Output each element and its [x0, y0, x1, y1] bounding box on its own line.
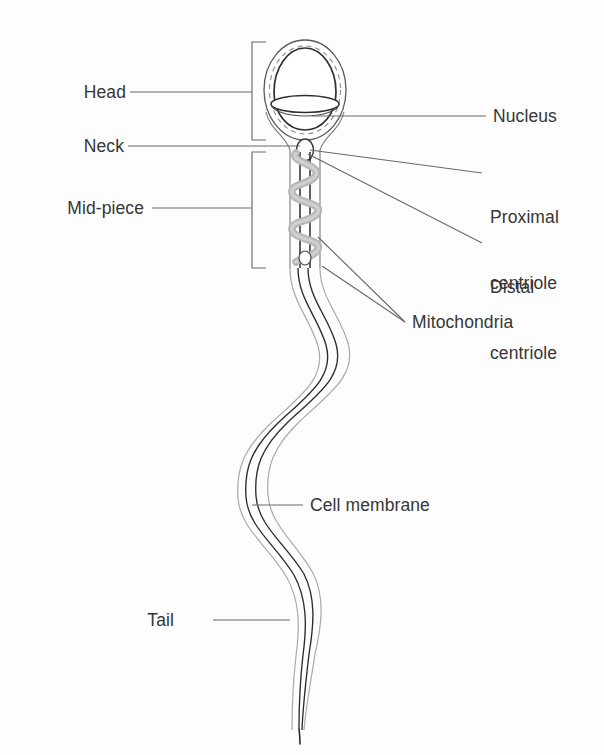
label-distal-centriole-line2: centriole — [490, 342, 557, 364]
diagram-canvas: Head Neck Mid-piece Nucleus Proximal cen… — [0, 0, 604, 755]
distal-centriole — [299, 251, 311, 265]
label-tail: Tail — [118, 609, 174, 631]
label-proximal-centriole-line1: Proximal — [490, 206, 559, 228]
label-neck: Neck — [56, 135, 124, 157]
mid-piece-bracket — [252, 152, 266, 268]
label-cell-membrane: Cell membrane — [310, 494, 430, 516]
label-mid-piece: Mid-piece — [20, 197, 144, 219]
proximal-centriole-leader-line — [310, 150, 482, 173]
tail-tip — [299, 729, 300, 744]
mitochondria-leader-line-upper — [318, 237, 405, 322]
tail-membrane-outer-left — [238, 268, 320, 730]
label-mitochondria: Mitochondria — [412, 311, 513, 333]
nucleus-equatorial-band — [271, 96, 339, 113]
label-nucleus: Nucleus — [493, 105, 557, 127]
nucleus-outline — [274, 48, 336, 130]
distal-centriole-leader-line — [308, 154, 482, 243]
label-distal-centriole-line1: Distal — [490, 276, 557, 298]
label-head: Head — [56, 81, 126, 103]
